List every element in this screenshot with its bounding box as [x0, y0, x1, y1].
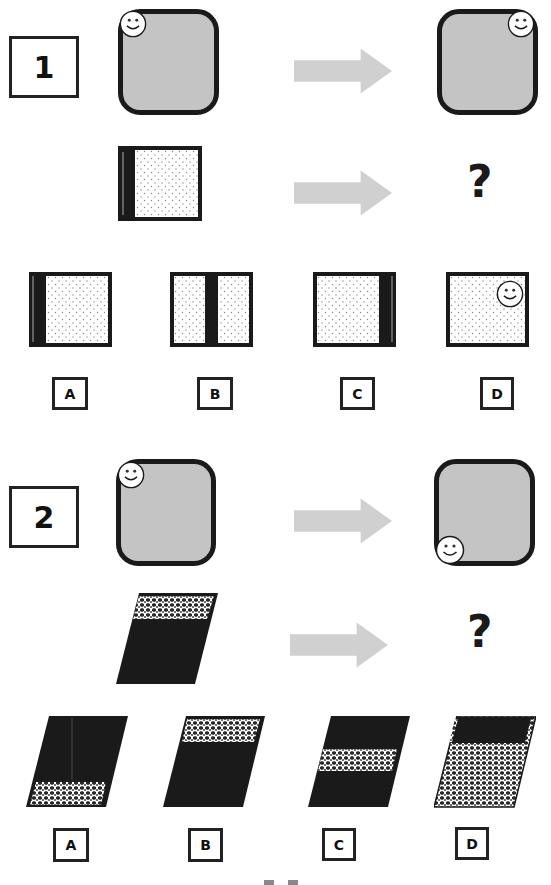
- option-a-label[interactable]: A: [52, 377, 88, 410]
- smiley-icon: [507, 10, 535, 38]
- question-shape: [116, 593, 218, 685]
- question-mark: ?: [467, 156, 493, 207]
- option-d-label[interactable]: D: [455, 827, 489, 860]
- cropped-graphic-fragment: [264, 880, 298, 885]
- option-c-shape[interactable]: [313, 272, 396, 347]
- option-b-label[interactable]: B: [188, 828, 223, 862]
- option-d-label[interactable]: D: [480, 377, 514, 410]
- option-b-label[interactable]: B: [197, 377, 233, 410]
- smiley-icon: [117, 461, 145, 489]
- arrow-icon: [294, 170, 392, 216]
- smiley-icon: [119, 10, 147, 38]
- puzzle-number-2: 2: [9, 486, 79, 548]
- option-b-shape[interactable]: [170, 272, 253, 347]
- option-a-label[interactable]: A: [53, 828, 89, 862]
- option-d-shape[interactable]: [446, 272, 529, 347]
- option-c-label[interactable]: C: [340, 377, 375, 410]
- smiley-icon: [435, 535, 465, 565]
- puzzle-number-1: 1: [9, 36, 79, 98]
- arrow-icon: [294, 498, 392, 544]
- question-mark: ?: [467, 606, 493, 657]
- option-c-label[interactable]: C: [322, 828, 356, 861]
- arrow-icon: [294, 48, 392, 94]
- option-b-shape[interactable]: [163, 716, 265, 808]
- option-c-shape[interactable]: [308, 716, 410, 808]
- option-a-shape[interactable]: [26, 716, 128, 808]
- option-d-shape[interactable]: [434, 716, 536, 808]
- arrow-icon: [290, 622, 388, 668]
- question-shape: [118, 146, 202, 221]
- option-a-shape[interactable]: [29, 272, 112, 347]
